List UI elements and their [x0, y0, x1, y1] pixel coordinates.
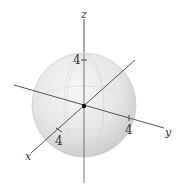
origin-point [82, 104, 86, 108]
sphere-diagram: z 4 y 4 x 4 [0, 0, 184, 187]
z-axis-label: z [80, 8, 87, 21]
y-tick-label: 4 [125, 123, 133, 137]
z-tick-label: 4 [73, 53, 81, 67]
x-axis-label: x [25, 150, 32, 163]
y-axis-label: y [164, 126, 172, 139]
x-tick-label: 4 [55, 134, 63, 148]
